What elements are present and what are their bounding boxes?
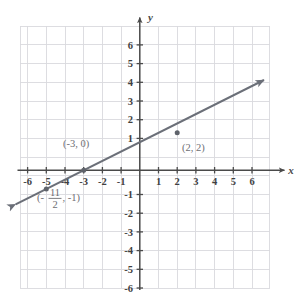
y-tick-1: 1 — [128, 133, 133, 144]
x-tick-4: 4 — [212, 176, 218, 187]
point-marker-neg3-0 — [81, 168, 86, 173]
y-tick--5: -5 — [124, 264, 133, 275]
fraction-denominator: 2 — [52, 199, 57, 210]
x-tick--5: -5 — [42, 176, 51, 187]
y-tick--1: -1 — [124, 189, 133, 200]
y-tick--6: -6 — [124, 283, 133, 294]
x-tick-1: 1 — [156, 176, 161, 187]
x-tick--3: -3 — [79, 176, 88, 187]
y-tick--4: -4 — [124, 245, 133, 256]
x-axis-label: x — [287, 164, 294, 176]
fraction-numerator: 11 — [50, 187, 60, 198]
point-label-neg3-0: (-3, 0) — [63, 138, 90, 150]
y-tick-2: 2 — [128, 114, 133, 125]
y-tick-4: 4 — [128, 77, 134, 88]
y-tick--2: -2 — [124, 208, 133, 219]
coordinate-plane-svg: -6 -5 -4 -3 -2 -1 1 2 3 4 5 6 6 5 4 3 2 … — [0, 0, 307, 307]
x-tick-2: 2 — [175, 176, 180, 187]
x-tick-6: 6 — [249, 176, 254, 187]
y-axis-label: y — [146, 11, 153, 23]
graph-figure: -6 -5 -4 -3 -2 -1 1 2 3 4 5 6 6 5 4 3 2 … — [0, 0, 307, 307]
y-tick-5: 5 — [128, 58, 133, 69]
point-marker-2-2 — [175, 130, 180, 135]
y-tick--3: -3 — [124, 227, 133, 238]
x-tick--1: -1 — [117, 176, 126, 187]
x-tick-5: 5 — [231, 176, 236, 187]
x-tick--2: -2 — [98, 176, 107, 187]
fraction-label-open: (- — [37, 192, 44, 204]
point-marker-neg11over2-neg1 — [44, 187, 49, 192]
x-tick--6: -6 — [23, 176, 32, 187]
y-tick-3: 3 — [128, 96, 133, 107]
x-tick-3: 3 — [193, 176, 198, 187]
y-tick-6: 6 — [128, 40, 133, 51]
fraction-label-tail: , -1) — [63, 192, 81, 204]
point-label-2-2: (2, 2) — [182, 142, 205, 154]
